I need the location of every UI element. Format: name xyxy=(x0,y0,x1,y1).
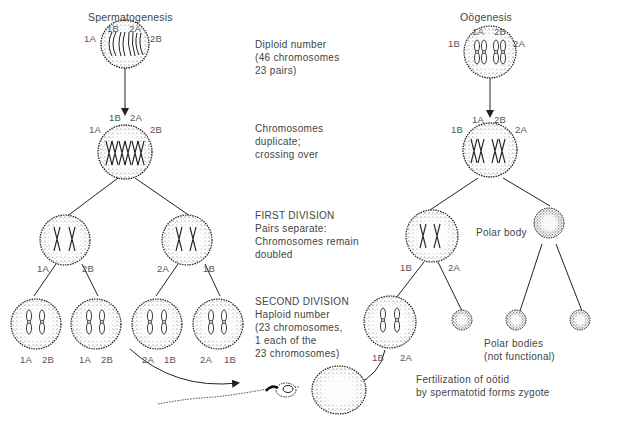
label: 2A xyxy=(400,352,412,363)
note-first-division: FIRST DIVISION Pairs separate: Chromosom… xyxy=(255,209,359,261)
sperm-cell xyxy=(158,383,300,404)
label: 2B xyxy=(101,354,113,365)
note-line: by spermatotid forms zygote xyxy=(416,386,550,399)
oo-second-division-cell xyxy=(364,296,416,348)
polar-body-label: Polar body xyxy=(476,226,527,239)
label: 2A xyxy=(142,354,154,365)
label: 2B xyxy=(150,124,162,135)
label: 1A xyxy=(472,26,484,37)
label: 1A xyxy=(84,33,96,44)
label: 2A xyxy=(130,112,142,123)
sperm-first-division-cell-1 xyxy=(40,215,90,265)
oo-cell-duplicated xyxy=(463,123,517,177)
label: 2B xyxy=(494,26,506,37)
fertilization-note: Fertilization of oötid by spermatotid fo… xyxy=(416,373,550,399)
note-line: doubled xyxy=(255,248,359,261)
label: 2B xyxy=(494,114,506,125)
label: 2A xyxy=(513,38,525,49)
polar-bodies-label: Polar bodies (not functional) xyxy=(484,337,555,363)
oo-polar-bodies xyxy=(452,310,590,330)
note-line: 1 each of the xyxy=(255,334,349,347)
oo-polar-body-1 xyxy=(534,208,564,238)
label: 1B xyxy=(451,124,463,135)
label: 1A xyxy=(89,124,101,135)
note-diploid: Diploid number (46 chromosomes 23 pairs) xyxy=(255,38,340,77)
note-line: Pairs separate: xyxy=(255,222,359,235)
oo-first-division-cell xyxy=(406,210,458,262)
note-line: crossing over xyxy=(255,148,323,161)
label: 2A xyxy=(448,262,460,273)
note-line: Fertilization of oötid xyxy=(416,373,550,386)
note-line: Haploid number xyxy=(255,308,349,321)
note-line: FIRST DIVISION xyxy=(255,209,359,222)
note-line: Polar bodies xyxy=(484,337,555,350)
label: 1A xyxy=(79,354,91,365)
sperm-cell-duplicated xyxy=(98,125,152,179)
label: 1B xyxy=(224,354,236,365)
note-line: (not functional) xyxy=(484,350,555,363)
label: 2A xyxy=(515,124,527,135)
spermatogenesis-title: Spermatogenesis xyxy=(88,12,173,23)
label: 1B xyxy=(203,263,215,274)
label: 2B xyxy=(82,263,94,274)
meiosis-diagram: Spermatogenesis 1B 2A 1A 2B 1B 2A 1A 2B … xyxy=(0,0,621,428)
ootid-egg xyxy=(312,366,366,414)
label: 1B xyxy=(109,112,121,123)
note-line: (23 chromosomes, xyxy=(255,321,349,334)
note-line: SECOND DIVISION xyxy=(255,295,349,308)
note-line: 23 pairs) xyxy=(255,64,340,77)
note-line: Chromosomes remain xyxy=(255,235,359,248)
sperm-first-division-cell-2 xyxy=(162,215,212,265)
label: 2A xyxy=(157,263,169,274)
label: 2B xyxy=(42,354,54,365)
label: 1A xyxy=(472,114,484,125)
label: 1B xyxy=(107,23,119,34)
label: 1B xyxy=(372,352,384,363)
note-line: 23 chromosomes) xyxy=(255,347,349,360)
label: 1A xyxy=(37,263,49,274)
note-line: duplicate; xyxy=(255,135,323,148)
note-second-division: SECOND DIVISION Haploid number (23 chrom… xyxy=(255,295,349,360)
label: 1B xyxy=(164,354,176,365)
label: 2A xyxy=(129,23,141,34)
label: 1A xyxy=(20,354,32,365)
label: 2B xyxy=(150,33,162,44)
label: 2A xyxy=(200,354,212,365)
note-duplicate: Chromosomes duplicate; crossing over xyxy=(255,122,323,161)
label: 1B xyxy=(448,38,460,49)
note-line: (46 chromosomes xyxy=(255,51,340,64)
label: 1B xyxy=(400,262,412,273)
oogenesis-title: Oögenesis xyxy=(460,12,512,23)
sperm-second-division-cells xyxy=(11,299,243,349)
note-line: Chromosomes xyxy=(255,122,323,135)
note-line: Diploid number xyxy=(255,38,340,51)
